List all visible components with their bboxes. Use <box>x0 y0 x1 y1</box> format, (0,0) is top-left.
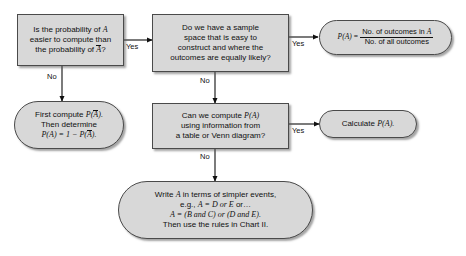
t3-math: P(A). <box>377 119 394 128</box>
q2-line2: space that is easy to <box>184 33 257 42</box>
edge-label-q1-no: No <box>47 72 57 81</box>
t4-line2-pre: e.g., <box>180 200 196 209</box>
t2-lhs: P(A) <box>338 32 352 41</box>
q2-line1: Do we have a sample <box>182 23 259 32</box>
edge-label-q3-no: No <box>200 152 210 161</box>
t1-line2: Then determine <box>41 120 97 129</box>
q1-line2: easier to compute than <box>30 35 111 44</box>
terminal-node-calculate[interactable]: Calculate P(A). <box>319 110 417 138</box>
t4-line1-post: in terms of simpler events, <box>183 190 276 199</box>
decision-node-q1-text: Is the probability of A easier to comput… <box>18 25 123 56</box>
terminal-node-calculate-text: Calculate P(A). <box>320 119 416 129</box>
flowchart-canvas: Is the probability of A easier to comput… <box>0 0 466 256</box>
t4-line1-pre: Write <box>155 190 174 199</box>
decision-node-q1[interactable]: Is the probability of A easier to comput… <box>17 14 124 66</box>
q3-line2: using information from <box>181 121 260 130</box>
q1-line3: the probability of <box>35 45 94 54</box>
terminal-node-classical-probability[interactable]: P(A) = No. of outcomes in A No. of all o… <box>319 20 452 55</box>
t3-text: Calculate <box>342 119 375 128</box>
q3-line1: Can we compute <box>182 111 242 120</box>
terminal-node-complement-rule-text: First compute P(A). Then determine P(A) … <box>15 110 123 141</box>
t4-line3: A = (B and C) or (D and E). <box>170 210 261 219</box>
t2-numerator-var: A <box>427 27 432 36</box>
edge-label-q1-yes: Yes <box>126 42 138 51</box>
t1-line3-a: P(A) = 1 − P( <box>41 130 86 139</box>
edge-label-q2-no: No <box>200 76 210 85</box>
t1-line3-b: ). <box>92 130 97 139</box>
q2-line4: outcomes are equally likely? <box>170 53 271 62</box>
terminal-node-complement-rule[interactable]: First compute P(A). Then determine P(A) … <box>14 101 124 149</box>
q1-line1: Is the probability of <box>33 25 100 34</box>
terminal-node-decompose-events-text: Write A in terms of simpler events, e.g.… <box>119 190 312 231</box>
t4-line2-math: A = D or E <box>198 200 234 209</box>
t1-line1: First compute <box>35 110 83 119</box>
edge-label-q3-yes: Yes <box>292 126 304 135</box>
q1-var-a: A <box>103 25 108 34</box>
t2-relation: = <box>354 32 358 41</box>
decision-node-q2[interactable]: Do we have a sample space that is easy t… <box>152 14 289 72</box>
t4-line2-post: or… <box>236 200 251 209</box>
edge-label-q2-yes: Yes <box>292 39 304 48</box>
decision-node-q2-text: Do we have a sample space that is easy t… <box>153 23 288 64</box>
t2-numerator-text: No. of outcomes in <box>362 27 425 36</box>
t4-line1-var: A <box>176 190 181 199</box>
t1-line1-math-post: ). <box>98 110 103 119</box>
t4-line4: Then use the rules in Chart II. <box>163 220 268 229</box>
terminal-node-classical-probability-text: P(A) = No. of outcomes in A No. of all o… <box>320 28 451 46</box>
t2-fraction: No. of outcomes in A No. of all outcomes <box>360 28 433 46</box>
decision-node-q3-text: Can we compute P(A) using information fr… <box>153 111 288 142</box>
t2-denominator: No. of all outcomes <box>363 38 431 47</box>
terminal-node-decompose-events[interactable]: Write A in terms of simpler events, e.g.… <box>118 181 313 239</box>
q3-line3: a table or Venn diagram? <box>176 131 265 140</box>
decision-node-q3[interactable]: Can we compute P(A) using information fr… <box>152 103 289 149</box>
q2-line3: construct and where the <box>178 43 263 52</box>
q3-line1-math: P(A) <box>244 111 259 120</box>
q1-line3-end: ? <box>101 45 105 54</box>
